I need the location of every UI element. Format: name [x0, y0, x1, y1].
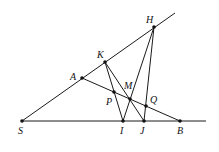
point-H: [152, 25, 156, 29]
label-P: P: [105, 96, 112, 107]
point-S: [20, 119, 24, 123]
label-J: J: [140, 125, 145, 136]
point-B: [178, 119, 182, 123]
label-S: S: [18, 125, 23, 136]
label-A: A: [69, 71, 77, 82]
label-H: H: [145, 14, 154, 25]
label-M: M: [123, 80, 133, 91]
line-KJ: [105, 62, 144, 121]
point-Q: [144, 104, 148, 108]
geometry-diagram: S A K H I J B M P Q: [0, 0, 219, 152]
label-K: K: [96, 49, 105, 60]
label-B: B: [177, 125, 183, 136]
point-M: [128, 97, 132, 101]
point-K: [103, 60, 107, 64]
point-A: [80, 76, 84, 80]
point-I: [121, 119, 125, 123]
point-J: [142, 119, 146, 123]
label-I: I: [119, 125, 124, 136]
label-Q: Q: [150, 94, 158, 105]
point-P: [112, 90, 116, 94]
